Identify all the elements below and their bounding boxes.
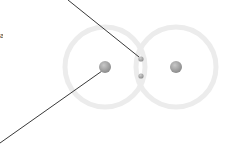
left-atom-nucleus <box>99 61 111 73</box>
diagram-canvas <box>0 0 234 155</box>
electron-pointer-line <box>68 0 139 57</box>
cropped-label-fragment: a <box>0 32 3 40</box>
shared-electron-2 <box>138 73 143 78</box>
shared-electron-1 <box>138 56 143 61</box>
right-atom-nucleus <box>170 61 182 73</box>
nucleus-pointer-line <box>0 71 102 143</box>
